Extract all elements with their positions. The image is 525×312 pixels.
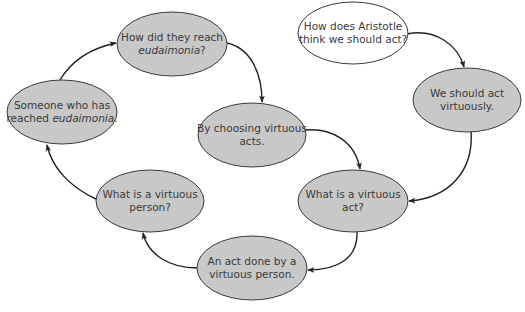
arrow-how-reach-to-choosing	[227, 43, 262, 102]
node-text-line: Someone who has	[7, 99, 118, 112]
node-text: How did they reacheudaimonia?	[121, 31, 223, 57]
node-text: By choosing virtuousacts.	[197, 122, 307, 148]
text-segment: acts.	[239, 135, 264, 147]
node-virtuous-act: What is a virtuousact?	[298, 170, 408, 232]
node-text: How does Aristotlethink we should act?	[299, 20, 407, 46]
italic-term: eudaimonia	[52, 112, 114, 124]
text-segment: How does Aristotle	[304, 20, 403, 32]
node-text-line: How does Aristotle	[299, 20, 407, 33]
text-segment: We should act	[430, 87, 504, 99]
node-reached: Someone who hasreached eudaimonia.	[7, 80, 117, 144]
node-text: An act done by avirtuous person.	[207, 255, 296, 281]
node-choosing: By choosing virtuousacts.	[198, 103, 306, 167]
node-text: We should actvirtuously.	[430, 87, 504, 113]
node-text-line: What is a virtuous	[305, 188, 400, 201]
node-start: How does Aristotlethink we should act?	[298, 2, 408, 64]
node-text-line: virtuously.	[430, 100, 504, 113]
diagram-canvas: How does Aristotlethink we should act?We…	[0, 0, 525, 312]
arrow-start-to-act-virtuously	[407, 33, 464, 67]
arrow-choosing-to-virtuous-act	[306, 130, 360, 169]
node-text-line: How did they reach	[121, 31, 223, 44]
text-segment: think we should act?	[299, 33, 407, 45]
node-text-line: What is a virtuous	[102, 188, 197, 201]
text-segment: virtuously.	[440, 100, 494, 112]
node-virtuous-person: What is a virtuousperson?	[96, 170, 204, 232]
node-act-done: An act done by avirtuous person.	[197, 236, 307, 300]
text-segment: virtuous person.	[209, 268, 294, 280]
node-text-line: reached eudaimonia.	[7, 112, 118, 125]
arrow-virtuous-person-to-reached	[47, 145, 96, 199]
node-text-line: An act done by a	[207, 255, 296, 268]
node-text: What is a virtuousact?	[305, 188, 400, 214]
node-text-line: By choosing virtuous	[197, 122, 307, 135]
node-how-reach: How did they reacheudaimonia?	[117, 12, 227, 76]
text-segment: What is a virtuous	[102, 188, 197, 200]
node-text: What is a virtuousperson?	[102, 188, 197, 214]
text-segment: act?	[342, 201, 364, 213]
text-segment: How did they reach	[121, 31, 223, 43]
italic-term: eudaimonia	[138, 44, 200, 56]
arrow-reached-to-how-reach	[60, 43, 116, 80]
node-text-line: think we should act?	[299, 33, 407, 46]
arrow-act-virtuously-to-virtuous-act	[409, 131, 471, 201]
node-text-line: We should act	[430, 87, 504, 100]
node-text-line: person?	[102, 201, 197, 214]
arrow-act-done-to-virtuous-person	[143, 233, 197, 268]
text-segment: ?	[200, 44, 206, 56]
node-text-line: act?	[305, 201, 400, 214]
node-text-line: virtuous person.	[207, 268, 296, 281]
node-text: Someone who hasreached eudaimonia.	[7, 99, 118, 125]
text-segment: .	[114, 112, 117, 124]
text-segment: person?	[129, 201, 171, 213]
node-act-virtuously: We should actvirtuously.	[413, 68, 521, 132]
text-segment: reached	[7, 112, 53, 124]
arrow-virtuous-act-to-act-done	[308, 232, 357, 270]
node-text-line: acts.	[197, 135, 307, 148]
text-segment: An act done by a	[207, 255, 296, 267]
node-text-line: eudaimonia?	[121, 44, 223, 57]
text-segment: What is a virtuous	[305, 188, 400, 200]
text-segment: Someone who has	[14, 99, 110, 111]
text-segment: By choosing virtuous	[197, 122, 307, 134]
